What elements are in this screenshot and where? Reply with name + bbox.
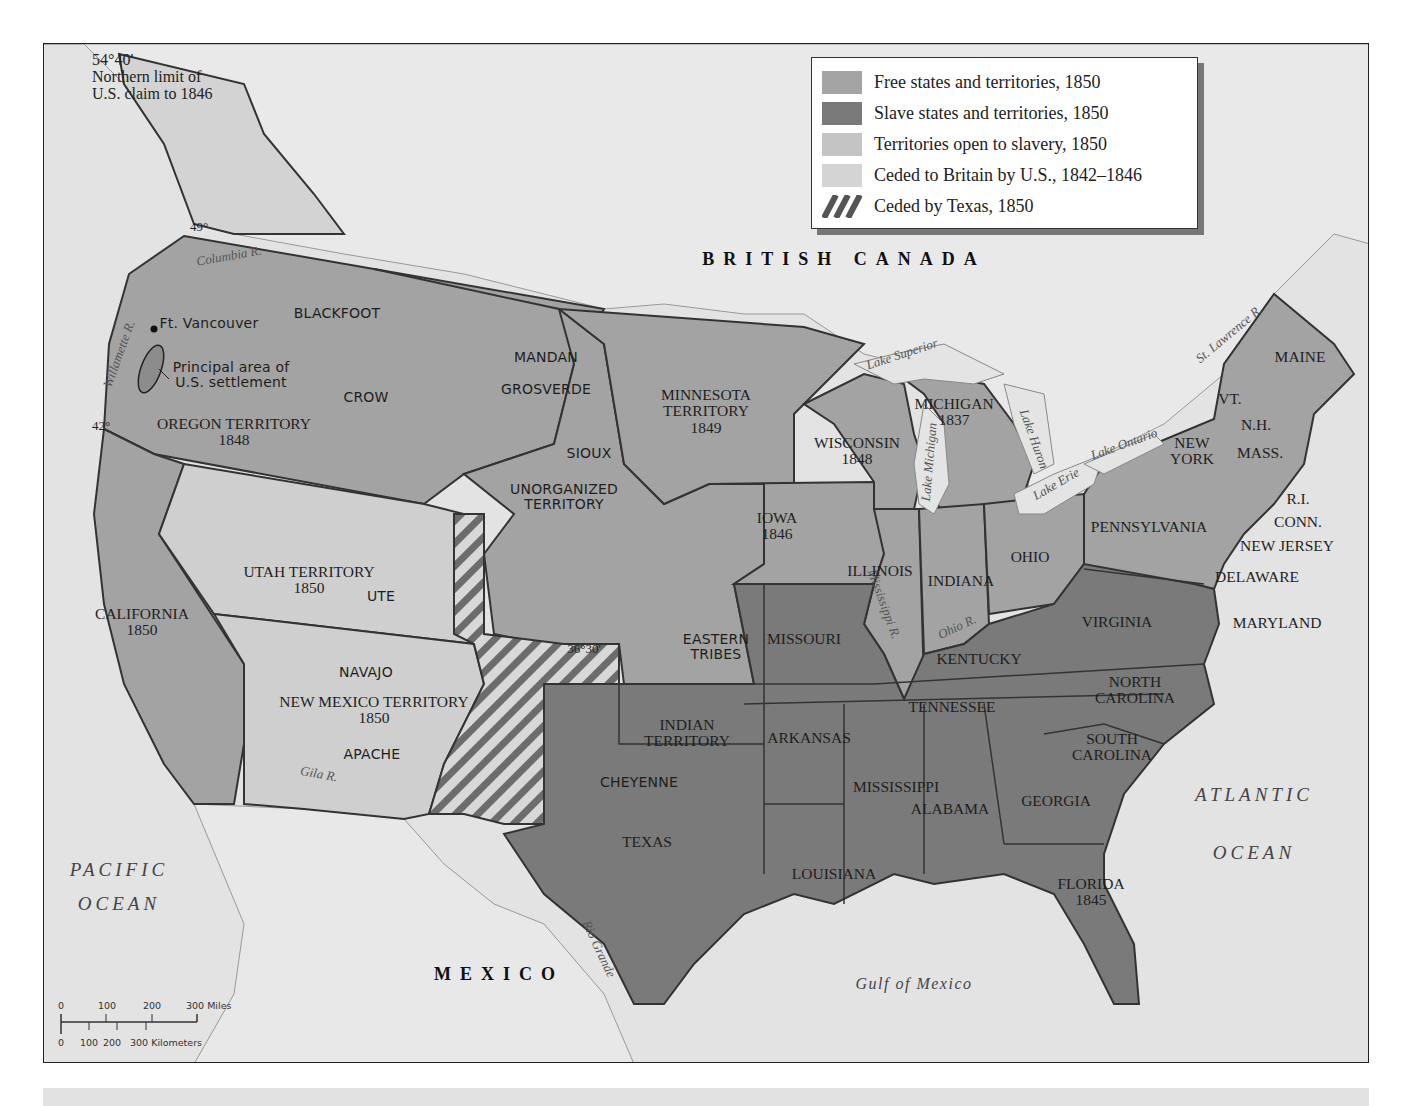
region-label-georgia: GEORGIA: [1021, 793, 1091, 809]
region-label-maine: MAINE: [1275, 349, 1326, 365]
parallel-3630-label: 36°30': [567, 642, 601, 656]
footer-bar: [43, 1088, 1369, 1106]
region-label-minnesota: MINNESOTA TERRITORY1849: [651, 387, 761, 436]
british-canada-label: BRITISH CANADA: [702, 250, 986, 269]
region-label-indian-territory: INDIAN TERRITORY: [642, 717, 732, 750]
gulf-of-mexico-label: Gulf of Mexico: [856, 976, 973, 993]
scale-mile-200: 200: [143, 1000, 161, 1011]
region-label-alabama: ALABAMA: [911, 801, 989, 817]
legend-label: Ceded to Britain by U.S., 1842–1846: [874, 165, 1142, 186]
legend-label: Slave states and territories, 1850: [874, 103, 1108, 124]
legend-item-slave: Slave states and territories, 1850: [822, 98, 1187, 129]
region-label-new-jersey: NEW JERSEY: [1240, 538, 1334, 554]
northern-limit-note: 54°40' Northern limit of U.S. claim to 1…: [92, 52, 212, 102]
region-label-louisiana: LOUISIANA: [792, 866, 876, 882]
legend-label: Ceded by Texas, 1850: [874, 196, 1033, 217]
scale-km-100: 100: [80, 1037, 98, 1048]
parallel-42-label: 42°: [92, 419, 110, 433]
open-swatch-icon: [822, 133, 862, 156]
region-label-illinois: ILLINOIS: [847, 563, 912, 579]
scale-mile-100: 100: [98, 1000, 116, 1011]
ft-vancouver-label: Ft. Vancouver: [160, 316, 259, 331]
region-label-virginia: VIRGINIA: [1082, 614, 1153, 630]
legend-item-open: Territories open to slavery, 1850: [822, 129, 1187, 160]
settlement-label: Principal area of U.S. settlement: [173, 360, 290, 389]
tribe-label-blackfoot: BLACKFOOT: [294, 306, 380, 321]
region-label-wisconsin: WISCONSIN1848: [814, 435, 900, 468]
scale-mile-300: 300 Miles: [186, 1000, 231, 1011]
region-label-florida: FLORIDA1845: [1057, 876, 1124, 909]
region-label-kentucky: KENTUCKY: [936, 651, 1021, 667]
region-label-california: CALIFORNIA1850: [95, 606, 189, 639]
region-label-tennessee: TENNESSEE: [909, 699, 996, 715]
region-label-massachusetts: MASS.: [1237, 445, 1283, 461]
scale-mile-0: 0: [58, 1000, 64, 1011]
tribe-label-navajo: NAVAJO: [339, 665, 393, 680]
tribe-label-grosverde: GROSVERDE: [501, 382, 591, 397]
region-label-arkansas: ARKANSAS: [767, 730, 851, 746]
region-label-rhode-island: R.I.: [1286, 491, 1309, 507]
mexico-label: MEXICO: [434, 965, 564, 984]
tribe-label-crow: CROW: [343, 390, 388, 405]
region-label-new-york: NEW YORK: [1162, 435, 1222, 468]
ceded-britain-swatch-icon: [822, 164, 862, 187]
region-label-michigan: MICHIGAN1837: [914, 396, 993, 429]
region-label-unorganized: UNORGANIZED TERRITORY: [494, 482, 634, 511]
region-label-ohio: OHIO: [1011, 549, 1050, 565]
tribe-label-cheyenne: CHEYENNE: [600, 775, 678, 790]
pacific-ocean-label: PACIFIC OCEAN: [70, 860, 168, 914]
region-label-texas: TEXAS: [622, 834, 672, 850]
scale-km-300: 300 Kilometers: [130, 1037, 202, 1048]
scale-ruler-icon: [60, 1014, 200, 1036]
legend-item-ceded-britain: Ceded to Britain by U.S., 1842–1846: [822, 160, 1187, 191]
scale-km-200: 200: [103, 1037, 121, 1048]
ft-vancouver-marker: [151, 326, 158, 333]
region-label-pennsylvania: PENNSYLVANIA: [1091, 519, 1207, 535]
region-label-maryland: MARYLAND: [1233, 615, 1322, 631]
region-label-oregon: OREGON TERRITORY1848: [157, 416, 311, 449]
tribe-label-apache: APACHE: [344, 747, 401, 762]
legend-label: Territories open to slavery, 1850: [874, 134, 1107, 155]
parallel-49-label: 49°: [190, 220, 208, 234]
region-label-mississippi: MISSISSIPPI: [853, 779, 939, 795]
region-label-new-mexico: NEW MEXICO TERRITORY1850: [279, 694, 468, 727]
free-swatch-icon: [822, 71, 862, 94]
scale-km-0: 0: [58, 1037, 64, 1048]
hatch-swatch-icon: [822, 195, 862, 218]
region-label-iowa: IOWA1846: [757, 510, 797, 543]
legend-label: Free states and territories, 1850: [874, 72, 1100, 93]
legend-item-free: Free states and territories, 1850: [822, 67, 1187, 98]
legend: Free states and territories, 1850 Slave …: [811, 57, 1198, 229]
region-label-connecticut: CONN.: [1274, 514, 1322, 530]
region-label-indiana: INDIANA: [928, 573, 994, 589]
region-label-missouri: MISSOURI: [767, 631, 841, 647]
region-label-north-carolina: NORTH CAROLINA: [1090, 674, 1180, 707]
region-label-south-carolina: SOUTH CAROLINA: [1067, 731, 1157, 764]
region-label-vermont: VT.: [1218, 391, 1241, 407]
region-label-delaware: DELAWARE: [1215, 569, 1299, 585]
atlantic-ocean-label: ATLANTIC OCEAN: [1195, 785, 1313, 863]
tribe-label-sioux: SIOUX: [567, 446, 612, 461]
tribe-label-mandan: MANDAN: [514, 350, 578, 365]
slave-swatch-icon: [822, 102, 862, 125]
tribe-label-eastern-tribes: EASTERN TRIBES: [676, 632, 756, 661]
legend-item-ceded-texas: Ceded by Texas, 1850: [822, 191, 1187, 222]
scale-bar: 0 100 200 300 Miles 0 100 200 300 Kilome…: [58, 1000, 258, 1050]
region-label-new-hampshire: N.H.: [1241, 417, 1271, 433]
region-label-utah: UTAH TERRITORY1850: [243, 564, 374, 597]
